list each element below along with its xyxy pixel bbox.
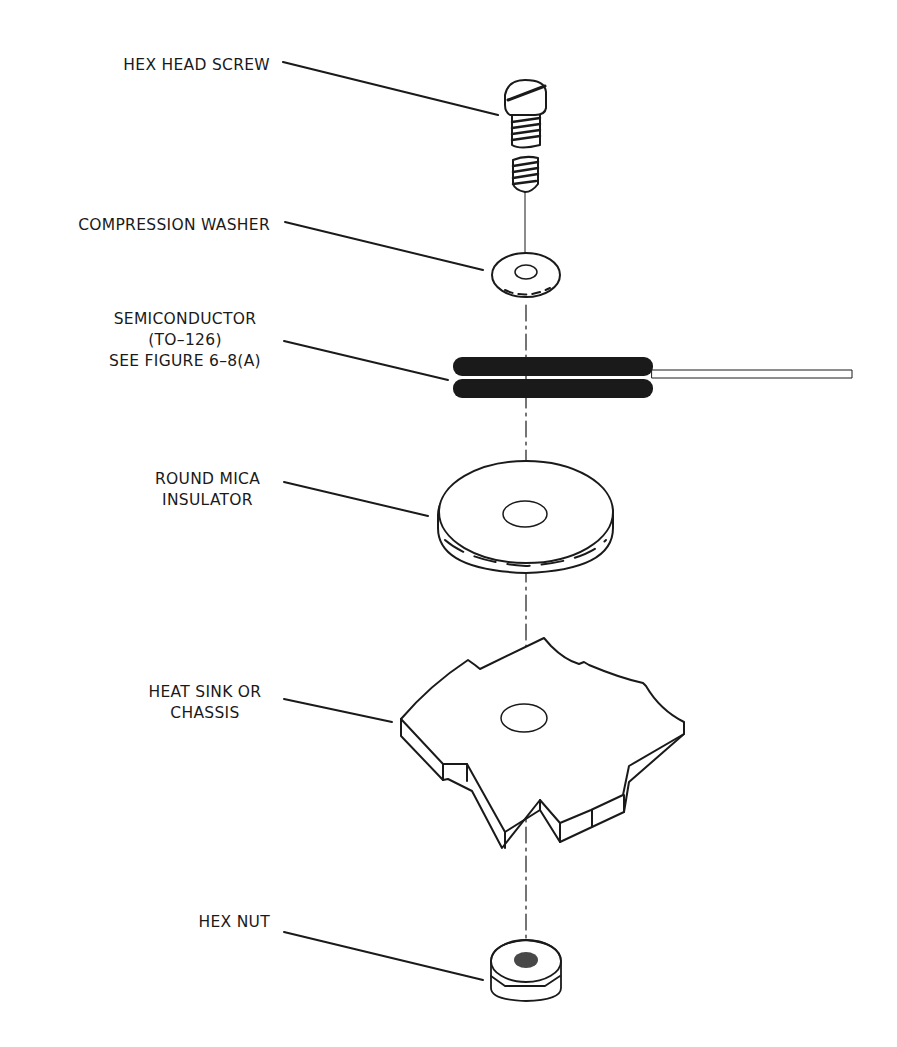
leader-line-nut [284, 932, 483, 980]
exploded-diagram [0, 0, 897, 1047]
leader-line-mica [284, 482, 428, 516]
round-mica-insulator-icon [438, 461, 613, 573]
hex-head-screw-icon [505, 80, 546, 192]
compression-washer-icon [492, 253, 560, 297]
leader-line-screw [283, 62, 498, 115]
hex-nut-icon [491, 940, 561, 1001]
leader-line-semiconductor [284, 341, 448, 380]
leader-line-washer [285, 222, 483, 270]
semiconductor-icon [453, 357, 852, 398]
leader-line-heatsink [284, 699, 392, 722]
heat-sink-icon [401, 638, 684, 848]
